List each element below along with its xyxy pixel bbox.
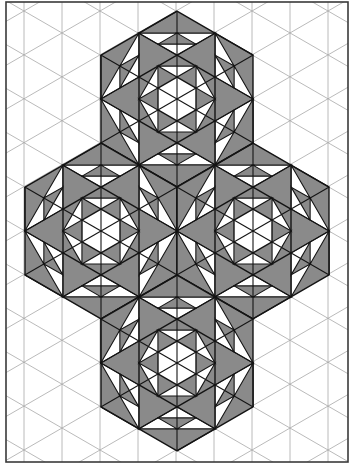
diagram-canvas [0,0,354,470]
hexagon-tessellation-figure [0,0,354,470]
flower-tiles [25,11,329,451]
